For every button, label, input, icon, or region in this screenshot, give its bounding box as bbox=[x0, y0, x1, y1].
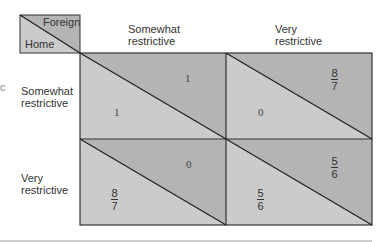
payoff-grid-graphic bbox=[0, 0, 387, 242]
cell-vs-home-payoff: 87 bbox=[111, 188, 118, 211]
column-header-somewhat-restrictive: Somewhat restrictive bbox=[128, 23, 180, 47]
row-header-very-restrictive: Very restrictive bbox=[21, 172, 68, 196]
cell-sv-home-payoff: 0 bbox=[258, 106, 264, 118]
cell-sv-foreign-payoff: 87 bbox=[331, 68, 338, 91]
row-header-somewhat-restrictive: Somewhat restrictive bbox=[21, 85, 73, 109]
cell-ss-foreign-payoff: 1 bbox=[185, 72, 191, 84]
corner-foreign-label: Foreign bbox=[43, 16, 80, 28]
column-header-very-restrictive: Very restrictive bbox=[275, 23, 322, 47]
corner-home-label: Home bbox=[25, 38, 54, 50]
edge-text-fragment: c bbox=[0, 81, 6, 93]
cell-vv-foreign-payoff: 56 bbox=[331, 156, 338, 179]
cell-vv-home-payoff: 56 bbox=[257, 188, 264, 211]
cell-ss-home-payoff: 1 bbox=[114, 106, 120, 118]
cell-vs-foreign-payoff: 0 bbox=[186, 158, 192, 170]
